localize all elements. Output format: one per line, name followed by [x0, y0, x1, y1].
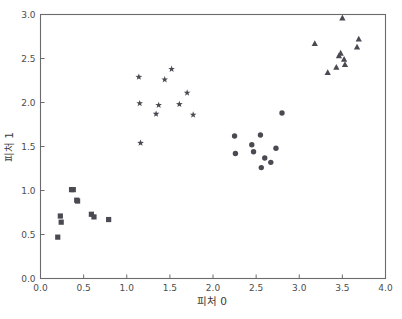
data-point — [268, 160, 273, 165]
x-tick-label: 3.5 — [335, 283, 349, 293]
y-tick-label: 1.5 — [21, 142, 35, 152]
x-tick-label: 1.5 — [163, 283, 177, 293]
data-point — [249, 142, 254, 147]
y-tick-label: 0.5 — [21, 230, 35, 240]
x-tick-labels: 0.00.51.01.52.02.53.03.54.0 — [33, 283, 393, 293]
figure-background — [0, 0, 402, 319]
plot-canvas: 0.00.51.01.52.02.53.03.54.0 0.00.51.01.5… — [0, 0, 402, 319]
data-point — [232, 133, 237, 138]
x-tick-label: 2.5 — [249, 283, 263, 293]
x-tick-label: 2.0 — [206, 283, 221, 293]
data-point — [258, 132, 263, 137]
y-tick-label: 3.0 — [21, 10, 36, 20]
y-tick-label: 1.0 — [21, 186, 36, 196]
data-point — [251, 149, 256, 154]
data-point — [55, 235, 60, 240]
data-point — [59, 220, 64, 225]
scatter-plot-figure: 0.00.51.01.52.02.53.03.54.0 0.00.51.01.5… — [0, 0, 402, 319]
data-point — [91, 214, 96, 219]
y-axis-title: 피처 1 — [3, 132, 15, 162]
data-point — [106, 217, 111, 222]
data-point — [58, 213, 63, 218]
data-point — [262, 155, 267, 160]
data-point — [75, 198, 80, 203]
y-tick-label: 0.0 — [21, 274, 36, 284]
x-axis-title: 피처 0 — [197, 295, 227, 307]
y-tick-label: 2.5 — [21, 54, 35, 64]
data-point — [259, 165, 264, 170]
x-tick-label: 0.0 — [33, 283, 48, 293]
x-tick-label: 3.0 — [292, 283, 307, 293]
data-point — [233, 151, 238, 156]
x-tick-label: 4.0 — [378, 283, 393, 293]
data-point — [273, 146, 278, 151]
data-point — [279, 110, 284, 115]
x-tick-label: 0.5 — [76, 283, 90, 293]
y-tick-label: 2.0 — [21, 98, 36, 108]
x-tick-label: 1.0 — [120, 283, 135, 293]
data-point — [71, 187, 76, 192]
